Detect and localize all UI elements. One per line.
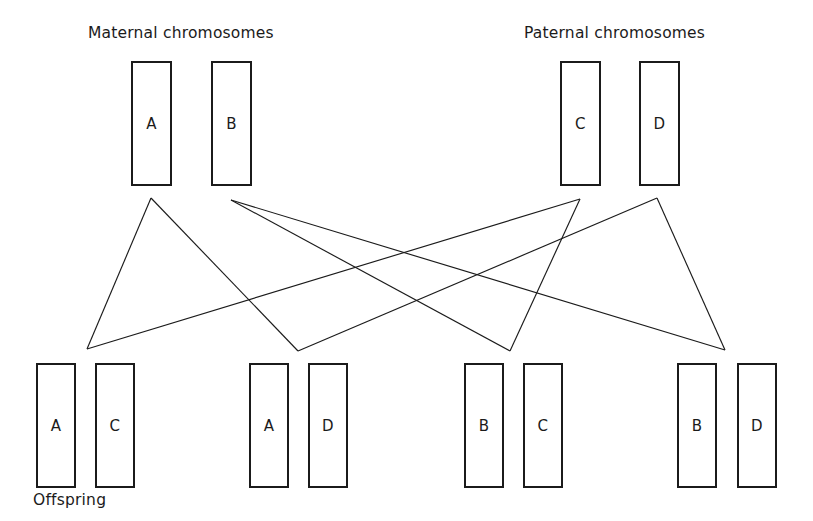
offspring-4-chromosome-d: D [737, 363, 777, 488]
chromosome-inheritance-diagram: Maternal chromosomes Paternal chromosome… [0, 0, 813, 521]
paternal-chromosome-d: D [639, 61, 680, 186]
paternal-chromosome-c: C [560, 61, 601, 186]
maternal-chromosome-b: B [211, 61, 252, 186]
maternal-chromosome-a: A [131, 61, 172, 186]
inheritance-line-c-to-offspring-3 [510, 199, 580, 351]
offspring-label: Offspring [33, 491, 106, 509]
inheritance-line-a-to-offspring-2 [151, 198, 298, 351]
inheritance-line-b-to-offspring-4 [231, 200, 725, 350]
inheritance-line-c-to-offspring-1 [87, 199, 580, 349]
inheritance-line-d-to-offspring-2 [298, 198, 657, 351]
offspring-4-chromosome-b: B [677, 363, 717, 488]
offspring-3-chromosome-c: C [523, 363, 563, 488]
inheritance-line-a-to-offspring-1 [87, 198, 151, 349]
offspring-1-chromosome-c: C [95, 363, 135, 488]
offspring-2-chromosome-a: A [249, 363, 289, 488]
inheritance-line-d-to-offspring-4 [657, 198, 725, 350]
inheritance-line-b-to-offspring-3 [231, 200, 510, 351]
offspring-2-chromosome-d: D [308, 363, 348, 488]
offspring-3-chromosome-b: B [464, 363, 504, 488]
offspring-1-chromosome-a: A [36, 363, 76, 488]
